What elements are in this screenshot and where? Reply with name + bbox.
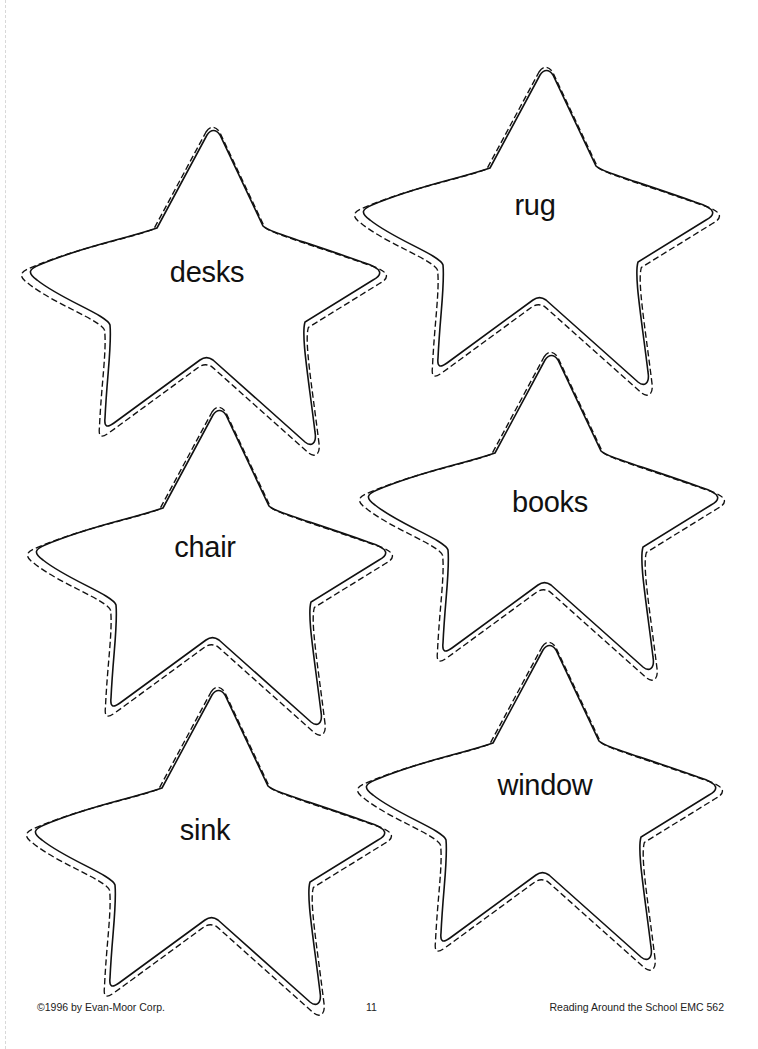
book-title: Reading Around the School EMC 562 — [549, 1001, 724, 1013]
star-outline — [36, 411, 385, 725]
star-word-desks: desks — [170, 256, 244, 289]
star-word-rug: rug — [514, 189, 555, 222]
star-cutouts — [0, 0, 758, 1049]
page-number: 11 — [366, 1001, 377, 1013]
star-window — [357, 642, 722, 970]
cut-line-dashed — [27, 407, 392, 735]
copyright-text: ©1996 by Evan-Moor Corp. — [37, 1001, 165, 1013]
star-chair — [27, 407, 392, 735]
star-desks — [21, 127, 386, 455]
cut-line-dashed — [21, 127, 386, 455]
star-sink — [26, 687, 391, 1015]
cut-line-dashed — [357, 642, 722, 970]
star-rug — [354, 67, 719, 395]
cut-line-dashed — [354, 67, 719, 395]
star-word-chair: chair — [174, 531, 235, 564]
star-outline — [366, 646, 715, 960]
star-outline — [363, 71, 712, 385]
cut-line-dashed — [26, 687, 391, 1015]
star-outline — [35, 691, 384, 1005]
star-word-window: window — [498, 769, 593, 802]
star-word-sink: sink — [180, 814, 230, 847]
star-word-books: books — [512, 486, 588, 519]
